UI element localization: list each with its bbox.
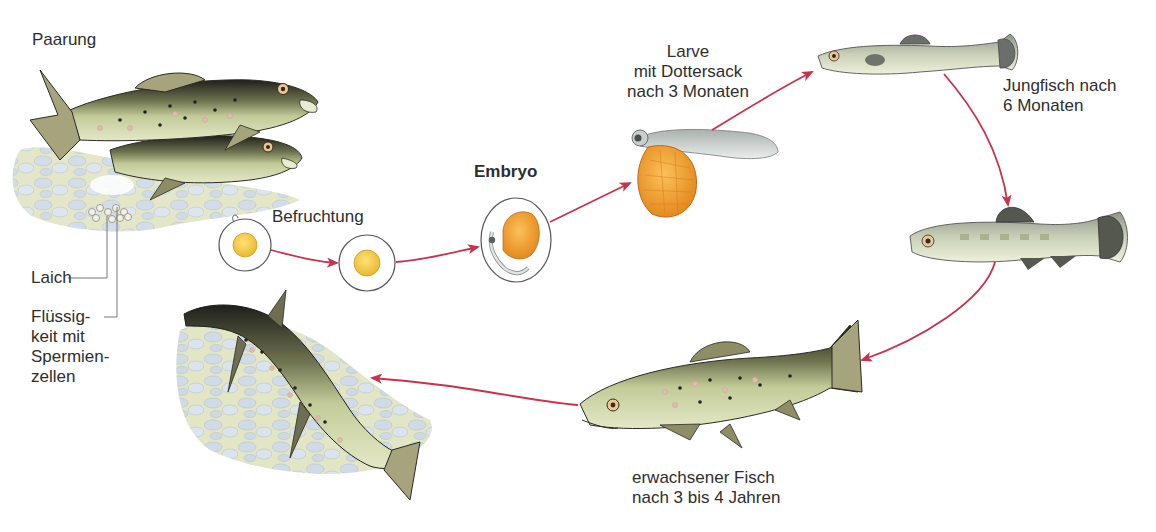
label-sperm-fluid-line-1: Flüssig-: [31, 307, 109, 327]
arrow-egg-to-fertilized: [271, 250, 337, 263]
egg-cell-icon: [219, 215, 271, 271]
label-sperm-fluid-line-2: keit mit: [31, 327, 109, 347]
arrow-fertilized-to-embryo: [396, 247, 478, 262]
arrow-embryo-to-larva: [550, 183, 630, 222]
label-adult-line-2: nach 3 bis 4 Jahren: [632, 488, 780, 508]
label-embryo: Embryo: [474, 162, 537, 182]
label-juvenile: Jungfisch nach 6 Monaten: [1003, 76, 1116, 116]
juvenile-fish-icon: [818, 34, 1018, 74]
label-juvenile-line-2: 6 Monaten: [1003, 96, 1116, 116]
label-sperm-fluid: Flüssig- keit mit Spermien- zellen: [31, 307, 109, 387]
embryo-in-egg-icon: [481, 198, 551, 282]
juvenile-fish-striped-icon: [910, 207, 1128, 270]
larva-with-yolk-sac-icon: [632, 129, 778, 217]
label-mating: Paarung: [32, 30, 96, 50]
label-spawn: Laich: [31, 268, 72, 288]
arrow-juvenile-to-adult: [862, 262, 995, 360]
label-sperm-fluid-line-4: zellen: [31, 367, 109, 387]
arrow-adult-to-spawning: [372, 378, 578, 405]
label-adult-line-1: erwachsener Fisch: [632, 468, 780, 488]
label-larva-line-3: nach 3 Monaten: [618, 82, 758, 102]
label-sperm-fluid-line-3: Spermien-: [31, 347, 109, 367]
arrow-juvenile-to-older-juvenile: [944, 74, 1008, 205]
life-cycle-diagram: [0, 0, 1156, 532]
label-larva-line-2: mit Dottersack: [618, 62, 758, 82]
label-fertilization: Befruchtung: [272, 207, 364, 227]
fertilized-egg-icon: [339, 235, 395, 291]
label-juvenile-line-1: Jungfisch nach: [1003, 76, 1116, 96]
label-larva-line-1: Larve: [618, 42, 758, 62]
label-adult: erwachsener Fisch nach 3 bis 4 Jahren: [632, 468, 780, 508]
label-larva: Larve mit Dottersack nach 3 Monaten: [618, 42, 758, 102]
adult-trout-icon: [580, 320, 862, 448]
